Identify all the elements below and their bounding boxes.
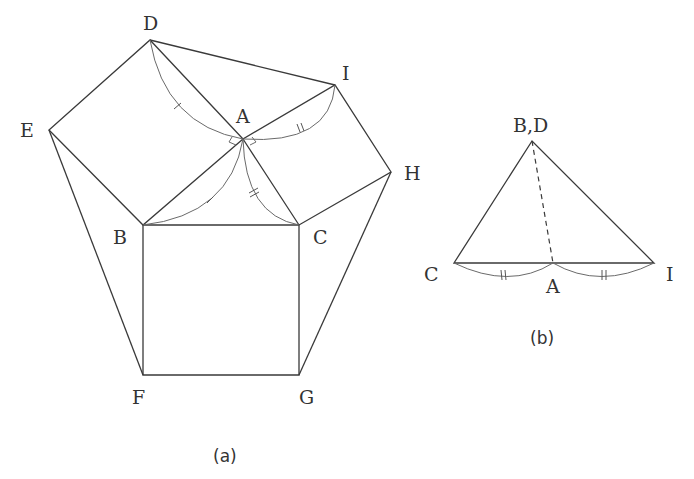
segment-di <box>150 40 335 85</box>
label-i: I <box>342 62 350 84</box>
label-i: I <box>666 263 674 285</box>
arc-ai <box>553 263 654 277</box>
label-a: A <box>235 105 250 127</box>
tick-double <box>301 123 304 131</box>
label-c: C <box>313 226 328 248</box>
segment-ef <box>49 130 143 375</box>
figure-a: D I A E H B C F G (a) <box>20 12 421 466</box>
tick-double <box>297 124 300 132</box>
figure-b: B,D C A I (b) <box>424 114 674 348</box>
square-bcgf <box>143 225 299 375</box>
label-c: C <box>424 263 439 285</box>
square-abed <box>49 40 243 225</box>
caption-a: (a) <box>213 446 237 466</box>
right-angle-mark <box>250 137 256 145</box>
tick-double <box>501 270 502 280</box>
segment-hg <box>299 172 391 375</box>
label-f: F <box>132 386 145 408</box>
label-b: B <box>113 226 127 248</box>
tick-single <box>207 197 213 203</box>
diagram-canvas: D I A E H B C F G (a) B,D C A I (b) <box>0 0 694 479</box>
square-achi <box>243 85 391 225</box>
triangle-cbi <box>454 141 654 263</box>
label-e: E <box>20 119 34 141</box>
right-angle-mark <box>229 137 236 145</box>
label-bd: B,D <box>513 114 548 136</box>
caption-b: (b) <box>530 328 554 348</box>
label-d: D <box>143 12 158 34</box>
label-g: G <box>299 386 314 408</box>
tick-double <box>505 270 506 280</box>
label-a: A <box>545 275 560 297</box>
tick-double <box>249 188 258 193</box>
label-h: H <box>404 162 421 184</box>
arc-ca <box>454 263 553 277</box>
